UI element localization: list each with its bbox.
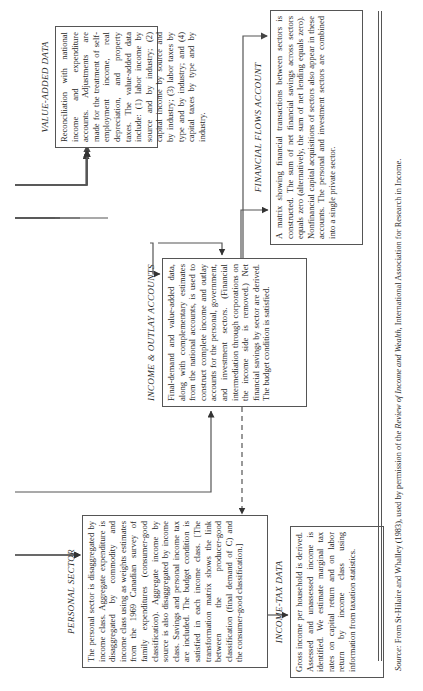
- edge-to-income-outlay: [15, 411, 211, 492]
- value-added-to-income-outlay-connector: [158, 244, 184, 272]
- value-added-to-income-outlay-route: [158, 243, 222, 255]
- left-to-income-outlay-arrow: [15, 410, 244, 502]
- income-outlay-to-financial-flows: [241, 210, 268, 258]
- visible-connectors: [0, 0, 423, 691]
- figure-page: VALUE-ADDED DATA Reconciliation with nat…: [0, 0, 423, 691]
- va-to-io: [150, 243, 160, 274]
- edge-line-2-to-io: [15, 218, 140, 241]
- value-added-down-to-income-outlay: [158, 245, 184, 264]
- left-to-income-outlay: [15, 413, 240, 476]
